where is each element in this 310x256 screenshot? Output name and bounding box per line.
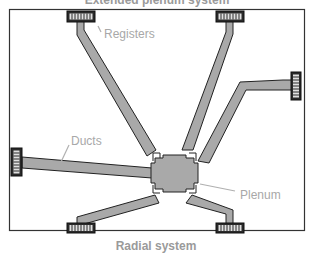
register-top-right xyxy=(216,11,244,22)
register-top-left xyxy=(67,11,95,22)
radial-system-diagram: Extended plenum system xyxy=(0,0,310,256)
register-left xyxy=(11,148,22,176)
plenum xyxy=(151,153,198,193)
register-bottom-right xyxy=(216,223,244,233)
plenum-label: Plenum xyxy=(240,188,281,202)
bottom-title: Radial system xyxy=(116,239,197,253)
top-title: Extended plenum system xyxy=(85,0,230,7)
register-right xyxy=(291,72,301,100)
plenum-box xyxy=(151,155,198,192)
register-bottom-left xyxy=(67,223,95,233)
ducts-label: Ducts xyxy=(71,134,102,148)
registers-label: Registers xyxy=(104,27,155,41)
